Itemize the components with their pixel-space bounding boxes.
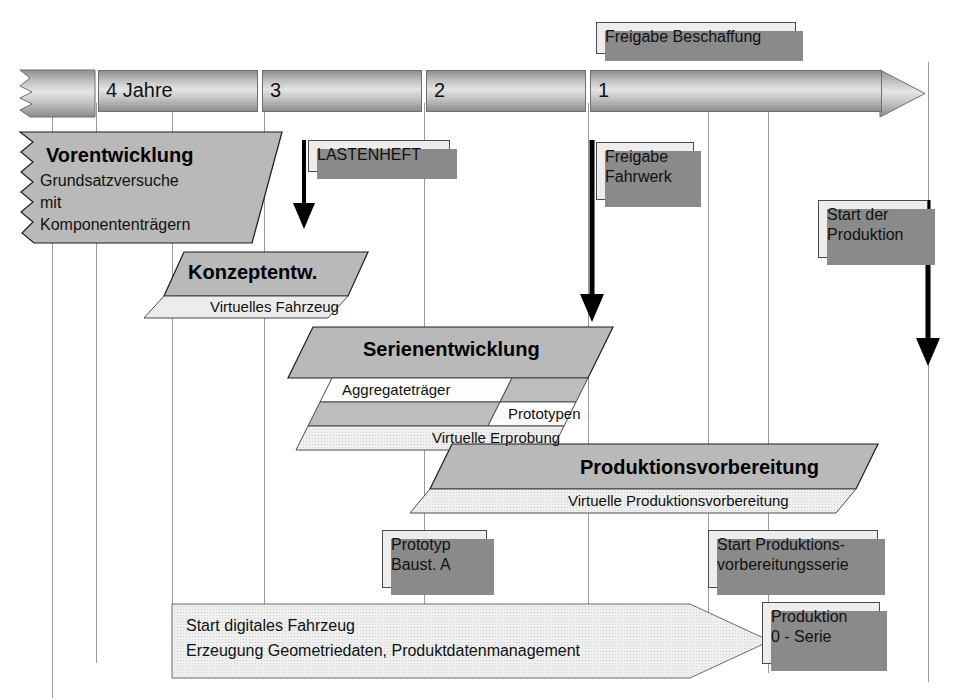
phase-subband-aggregatetraeger: Aggregateträger [342,381,450,398]
timeline-segment-label: 1 [598,79,609,102]
phase-title-konzeptentwicklung: Konzeptentw. [188,261,317,284]
milestone-produktion-null-serie[interactable]: Produktion 0 - Serie [762,602,880,664]
phase-title-vorentwicklung: Vorentwicklung [46,144,193,167]
milestone-start-der-produktion[interactable]: Start der Produktion [818,200,928,258]
milestone-start-produktionsvorbereitungsserie[interactable]: Start Produktions- vorbereitungsserie [708,530,878,588]
timeline-segment-label: 2 [434,79,445,102]
footer-banner-line-2: Erzeugung Geometriedaten, Produktdatenma… [186,642,580,660]
timeline-segment-3: 3 [262,70,422,112]
milestone-line: Baust. A [391,555,478,575]
timeline-diagram: 4 Jahre 3 2 1 Vorentwicklung Grundsatzve… [0,0,957,698]
phase-subband-virtuelle-erprobung: Virtuelle Erprobung [432,429,560,446]
phase-line-vorentwicklung-1: Grundsatzversuche [40,172,179,190]
milestone-line: Prototyp [391,535,478,555]
milestone-line: Freigabe [605,147,685,167]
milestone-lastenheft[interactable]: LASTENHEFT [308,140,450,172]
milestone-line: Fahrwerk [605,167,685,187]
phase-subband-prototypen: Prototypen [508,405,581,422]
timeline-segment-4-jahre: 4 Jahre [98,70,258,112]
timeline-segment-1: 1 [590,70,882,112]
timeline-segment-label: 4 Jahre [106,79,173,102]
axis-arrowhead [880,70,925,117]
milestone-freigabe-fahrwerk[interactable]: Freigabe Fahrwerk [596,142,694,200]
milestone-line: vorbereitungsserie [717,555,869,575]
timeline-segment-2: 2 [426,70,586,112]
axis-zigzag-start [20,70,95,117]
milestone-freigabe-beschaffung[interactable]: Freigabe Beschaffung [596,22,796,54]
milestone-prototyp-baustufe-a[interactable]: Prototyp Baust. A [382,530,487,588]
milestone-line: Freigabe Beschaffung [605,27,787,47]
milestone-line: LASTENHEFT [317,145,441,165]
milestone-line: Start der [827,205,919,225]
timeline-segment-label: 3 [270,79,281,102]
phase-title-produktionsvorbereitung: Produktionsvorbereitung [580,456,819,479]
footer-banner-shape [172,604,770,678]
phase-line-vorentwicklung-3: Komponententrägern [40,216,190,234]
phase-subband-virtuelle-produktionsvorbereitung: Virtuelle Produktionsvorbereitung [568,492,789,509]
phase-title-serienentwicklung: Serienentwicklung [363,338,540,361]
milestone-line: Produktion [827,225,919,245]
milestone-line: 0 - Serie [771,627,871,647]
phase-line-vorentwicklung-2: mit [40,194,61,212]
milestone-line: Produktion [771,607,871,627]
footer-banner-line-1: Start digitales Fahrzeug [186,617,355,635]
phase-subband-virtuelles-fahrzeug: Virtuelles Fahrzeug [210,298,339,315]
milestone-line: Start Produktions- [717,535,869,555]
